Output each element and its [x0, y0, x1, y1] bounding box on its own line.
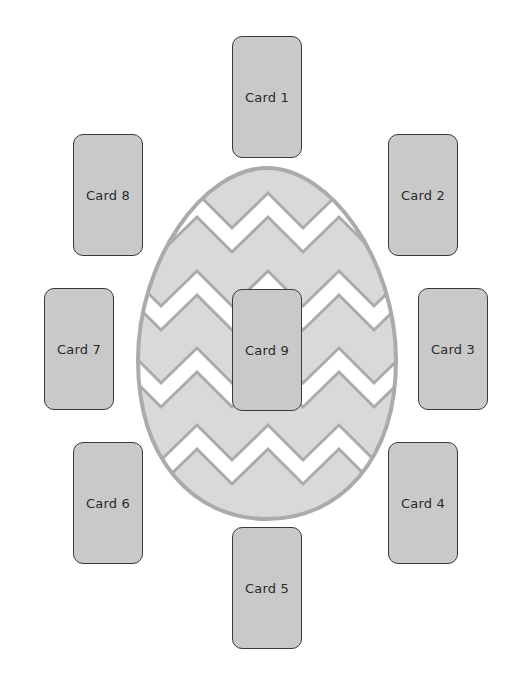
card-2-label: Card 2	[401, 188, 445, 203]
card-1-label: Card 1	[245, 90, 289, 105]
card-6-label: Card 6	[86, 496, 130, 511]
card-2: Card 2	[388, 134, 458, 256]
card-3-label: Card 3	[431, 342, 475, 357]
card-9: Card 9	[232, 289, 302, 411]
card-4-label: Card 4	[401, 496, 445, 511]
card-5-label: Card 5	[245, 581, 289, 596]
card-7-label: Card 7	[57, 342, 101, 357]
card-3: Card 3	[418, 288, 488, 410]
card-8-label: Card 8	[86, 188, 130, 203]
card-8: Card 8	[73, 134, 143, 256]
card-6: Card 6	[73, 442, 143, 564]
card-5: Card 5	[232, 527, 302, 649]
card-7: Card 7	[44, 288, 114, 410]
card-9-label: Card 9	[245, 343, 289, 358]
card-4: Card 4	[388, 442, 458, 564]
card-1: Card 1	[232, 36, 302, 158]
